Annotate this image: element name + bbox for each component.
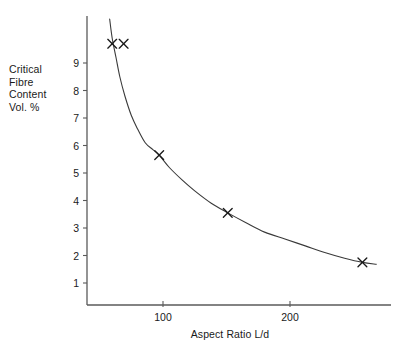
plot-area (0, 0, 393, 350)
data-point-marker (119, 39, 128, 48)
data-markers (108, 39, 367, 266)
trend-curve (110, 19, 377, 264)
data-curve (110, 19, 377, 264)
axes-group (83, 16, 391, 307)
data-point-marker (223, 208, 232, 217)
data-point-marker (155, 151, 164, 160)
chart-figure: Critical Fibre Content Vol. % Aspect Rat… (0, 0, 393, 350)
